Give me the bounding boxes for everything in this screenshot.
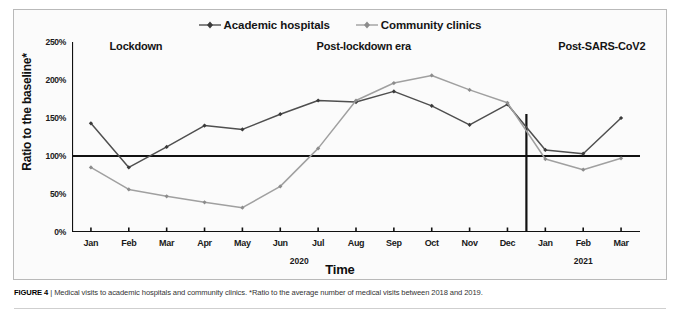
x-axis-tick-label: May bbox=[222, 238, 262, 248]
data-point-marker bbox=[278, 112, 282, 116]
legend-marker-icon bbox=[199, 20, 221, 30]
x-axis-tick-label: Jan bbox=[525, 238, 565, 248]
figure-caption-label: FIGURE 4 bbox=[14, 288, 48, 297]
caption-divider bbox=[14, 308, 666, 309]
figure-caption: FIGURE 4 | Medical visits to academic ho… bbox=[14, 288, 666, 297]
data-point-marker bbox=[468, 88, 472, 92]
legend-item-academic-hospitals: Academic hospitals bbox=[199, 19, 330, 31]
x-axis-tick-label: Nov bbox=[450, 238, 490, 248]
data-point-marker bbox=[240, 127, 244, 131]
y-axis-tick-label: 50% bbox=[30, 189, 66, 199]
x-axis-tick-label: Jul bbox=[298, 238, 338, 248]
y-axis-title: Ratio to the baseline* bbox=[20, 37, 34, 187]
x-axis-tick-label: Sep bbox=[374, 238, 414, 248]
x-axis-tick-label: Dec bbox=[487, 238, 527, 248]
x-axis-tick-label: Feb bbox=[563, 238, 603, 248]
data-point-marker bbox=[316, 98, 320, 102]
y-axis-tick-label: 250% bbox=[30, 37, 66, 47]
figure-panel: Academic hospitals Community clinics Loc… bbox=[0, 0, 680, 322]
y-axis-tick-label: 200% bbox=[30, 75, 66, 85]
line-chart-svg bbox=[72, 42, 640, 232]
x-axis-tick-label: Feb bbox=[109, 238, 149, 248]
figure-caption-separator: | bbox=[50, 288, 52, 297]
y-axis-tick-label: 100% bbox=[30, 151, 66, 161]
data-point-marker bbox=[392, 89, 396, 93]
legend-label-academic-hospitals: Academic hospitals bbox=[224, 19, 330, 31]
y-axis-tick-label: 0% bbox=[30, 227, 66, 237]
legend-marker-icon bbox=[356, 20, 378, 30]
x-axis-tick-label: Mar bbox=[147, 238, 187, 248]
legend-label-community-clinics: Community clinics bbox=[381, 19, 482, 31]
series-line-community-clinics bbox=[91, 75, 621, 207]
figure-caption-text: Medical visits to academic hospitals and… bbox=[54, 288, 483, 297]
data-point-marker bbox=[165, 194, 169, 198]
x-axis-tick-label: Jan bbox=[71, 238, 111, 248]
x-axis-title: Time bbox=[0, 262, 680, 277]
x-axis-tick-label: Jun bbox=[260, 238, 300, 248]
data-point-marker bbox=[430, 73, 434, 77]
x-axis-tick-label: Oct bbox=[412, 238, 452, 248]
y-axis-tick-label: 150% bbox=[30, 113, 66, 123]
x-axis-tick-label: Aug bbox=[336, 238, 376, 248]
data-point-marker bbox=[581, 168, 585, 172]
data-point-marker bbox=[202, 200, 206, 204]
plot-area bbox=[72, 42, 640, 232]
x-axis-tick-label: Apr bbox=[185, 238, 225, 248]
legend-item-community-clinics: Community clinics bbox=[356, 19, 482, 31]
chart-legend: Academic hospitals Community clinics bbox=[0, 16, 680, 34]
x-axis-tick-label: Mar bbox=[601, 238, 641, 248]
